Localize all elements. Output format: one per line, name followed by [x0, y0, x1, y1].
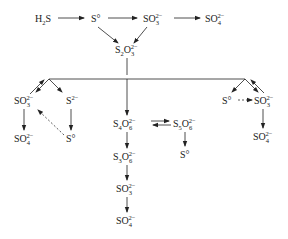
node-h2s: H2S [35, 13, 51, 26]
node-left-so4: SO42− [14, 132, 34, 146]
node-so3-top: SO32− [143, 12, 163, 26]
node-right-so4: SO42− [253, 130, 273, 144]
node-so3-mid: SO32− [116, 182, 136, 196]
node-left-so3: SO32− [14, 94, 34, 108]
node-right-so3: SO32− [254, 94, 274, 108]
node-s0-top: S° [91, 13, 101, 24]
node-s5o6: S5O62− [173, 117, 196, 131]
sulfur-pathway-diagram: H2S S° SO32− SO42− S2O32− SO32− S2− SO42… [0, 0, 288, 239]
arrow-s0-s2o3 [98, 27, 118, 43]
node-s4o6: S4O62− [113, 117, 136, 131]
node-left-s2: S2− [66, 94, 79, 106]
node-so4-mid: SO42− [116, 214, 136, 228]
node-so4-top: SO42− [205, 12, 225, 26]
arrow-left-down-s2 [49, 79, 62, 92]
node-s3o6: S3O62− [113, 150, 136, 164]
arrow-so3-s2o3 [134, 27, 147, 43]
arrow-left-s0-so3-dashed [38, 110, 64, 135]
node-s2o3: S2O32− [115, 43, 138, 57]
node-left-s0: S° [66, 133, 76, 144]
arrow-left-so3-up [30, 80, 44, 94]
arrow-right-down-s0 [232, 79, 245, 92]
node-right-s0: S° [222, 95, 232, 106]
node-s0-mid: S° [180, 149, 190, 160]
